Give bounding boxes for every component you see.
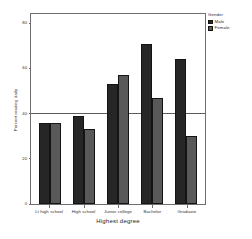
legend: Gender MaleFemale: [208, 12, 250, 33]
legend-swatch-male: [208, 20, 213, 25]
x-axis-labels: Lt high schoolHigh schoolJunior collegeB…: [30, 209, 206, 215]
bar-female: [118, 75, 129, 204]
bar-male: [39, 123, 50, 204]
x-axis-tick-label: Junior college: [101, 209, 135, 215]
bar-male: [141, 44, 152, 204]
y-axis-tick-label: 0: [25, 202, 27, 206]
bar-female: [186, 136, 197, 204]
legend-entry-male[interactable]: Male: [208, 20, 250, 25]
x-axis-tick-label: Graduate: [170, 209, 204, 215]
legend-swatch-female: [208, 26, 213, 31]
legend-entry-female[interactable]: Female: [208, 26, 250, 31]
y-axis-tick-label: 20: [22, 157, 27, 161]
y-axis-tick-label: 80: [22, 21, 27, 25]
bar-female: [84, 129, 95, 204]
bar-groups: [31, 14, 205, 204]
x-axis-tick-label: Lt high school: [32, 209, 66, 215]
legend-entry-label: Female: [215, 26, 230, 30]
bar-group: [169, 14, 203, 204]
bar-male: [107, 84, 118, 204]
bar-female: [50, 123, 61, 204]
bar-group: [67, 14, 101, 204]
bar-group: [135, 14, 169, 204]
y-axis-tick-label: 40: [22, 112, 27, 116]
y-axis-tick-label: 60: [22, 66, 27, 70]
bar-male: [73, 116, 84, 204]
bar-group: [33, 14, 67, 204]
legend-entries: MaleFemale: [208, 20, 250, 31]
plot-area: Percent reading daily 020406080: [30, 13, 206, 205]
bar-female: [152, 98, 163, 204]
y-axis-title: Percent reading daily: [9, 14, 23, 206]
x-axis-tick-label: Bachelor: [135, 209, 169, 215]
legend-entry-label: Male: [215, 20, 225, 24]
legend-title: Gender: [208, 12, 250, 17]
x-axis-title: Highest degree: [30, 218, 206, 224]
bar-group: [101, 14, 135, 204]
bar-male: [175, 59, 186, 204]
bar-chart: Percent reading daily 020406080 Lt high …: [0, 0, 252, 239]
x-axis-tick-label: High school: [66, 209, 100, 215]
